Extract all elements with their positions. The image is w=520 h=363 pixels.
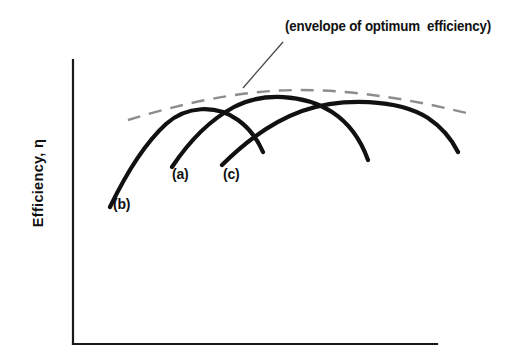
annotation-leader-line bbox=[243, 42, 283, 88]
curves-group bbox=[110, 97, 458, 207]
efficiency-envelope-figure: (envelope of optimum efficiency) Efficie… bbox=[0, 0, 520, 363]
curve-label-b: (b) bbox=[113, 196, 130, 212]
curve-label-c: (c) bbox=[223, 166, 240, 182]
y-axis-label: Efficiency, η bbox=[30, 118, 46, 248]
envelope-annotation-text: (envelope of optimum efficiency) bbox=[285, 18, 491, 34]
curve-b bbox=[110, 109, 263, 207]
plot-canvas bbox=[0, 0, 520, 363]
curve-c bbox=[222, 102, 458, 165]
curve-label-a: (a) bbox=[172, 166, 189, 182]
